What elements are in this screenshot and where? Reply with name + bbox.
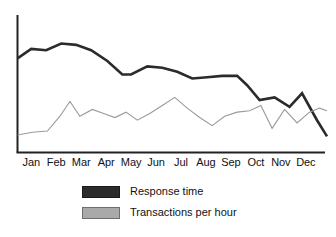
plot-area	[0, 0, 336, 160]
legend-swatch-transactions-per-hour	[82, 207, 120, 219]
x-tick-jan: Jan	[23, 155, 40, 169]
x-axis-tick-labels: JanFebMarAprMayJunJulAugSepOctNovDec	[0, 155, 336, 173]
legend-label-transactions-per-hour: Transactions per hour	[130, 206, 237, 219]
legend-swatch-response-time	[82, 186, 120, 198]
legend-item-transactions-per-hour: Transactions per hour	[82, 203, 332, 222]
chart-canvas	[0, 0, 336, 160]
x-tick-jun: Jun	[147, 155, 164, 169]
series-line-transactions-per-hour	[18, 97, 328, 135]
chart-legend: Response time Transactions per hour	[82, 182, 332, 224]
x-tick-oct: Oct	[247, 155, 264, 169]
x-tick-aug: Aug	[196, 155, 215, 169]
series-line-response-time	[18, 44, 328, 137]
x-tick-feb: Feb	[47, 155, 66, 169]
chart-figure: JanFebMarAprMayJunJulAugSepOctNovDec Res…	[0, 0, 336, 237]
series-layer	[18, 44, 328, 137]
x-tick-apr: Apr	[98, 155, 115, 169]
legend-item-response-time: Response time	[82, 182, 332, 201]
x-tick-jul: Jul	[174, 155, 188, 169]
x-tick-sep: Sep	[221, 155, 240, 169]
x-tick-mar: Mar	[72, 155, 91, 169]
legend-label-response-time: Response time	[130, 185, 203, 198]
x-tick-dec: Dec	[296, 155, 315, 169]
x-tick-may: May	[121, 155, 141, 169]
x-tick-nov: Nov	[271, 155, 290, 169]
